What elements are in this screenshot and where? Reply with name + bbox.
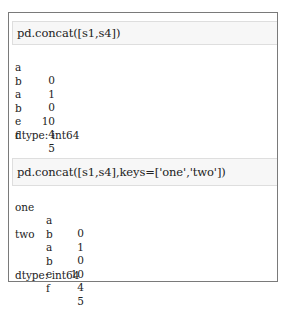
output-row: e 4	[15, 102, 75, 115]
code-cell-1-output: a 0 b 1 a 0 b 10 e 4 f 5 dtype: int64	[15, 48, 265, 153]
code-text: pd.concat([s1,s4],keys=['one','two'])	[17, 165, 226, 179]
code-text: pd.concat([s1,s4])	[17, 26, 120, 40]
output-row: f 5	[15, 116, 75, 129]
notebook-frame: pd.concat([s1,s4]) a 0 b 1 a 0 b 10 e 4 …	[8, 12, 278, 282]
code-cell-2-input[interactable]: pd.concat([s1,s4],keys=['one','two'])	[12, 158, 277, 186]
code-cell-1-input[interactable]: pd.concat([s1,s4])	[12, 21, 277, 45]
output-row: a 0	[15, 48, 75, 61]
output-dtype: dtype: int64	[15, 129, 79, 142]
code-cell-2-output: one a 0 b 1 two a 0 b 10 e 4 f 5 dt	[15, 188, 265, 283]
output-row: b 10	[15, 229, 95, 242]
row-value: 5	[77, 295, 84, 308]
output-row: e 4	[15, 242, 95, 255]
row-index: f	[46, 282, 50, 295]
output-row: b 1	[15, 202, 95, 215]
row-value: 4	[77, 281, 84, 294]
output-row: one a 0	[15, 188, 95, 201]
row-value: 5	[48, 142, 55, 155]
output-row: two a 0	[15, 215, 95, 228]
output-dtype: dtype: int64	[15, 269, 79, 282]
output-row: a 0	[15, 75, 75, 88]
output-row: f 5	[15, 256, 95, 269]
output-row: b 1	[15, 62, 75, 75]
output-row: b 10	[15, 89, 75, 102]
